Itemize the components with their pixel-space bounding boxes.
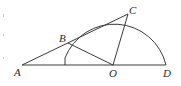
segment-OC [113,14,128,65]
label-A: A [13,66,21,78]
geometry-diagram: A B C O D [0,0,181,86]
label-B: B [59,32,66,44]
semicircle-arc [65,24,166,65]
segment-AC [22,14,128,65]
scan-artifact [3,57,4,59]
label-C: C [129,4,137,16]
label-D: D [162,67,171,79]
scan-artifact [3,14,4,17]
label-O: O [109,67,117,79]
segment-OB [68,43,113,65]
scan-artifact [3,34,4,36]
